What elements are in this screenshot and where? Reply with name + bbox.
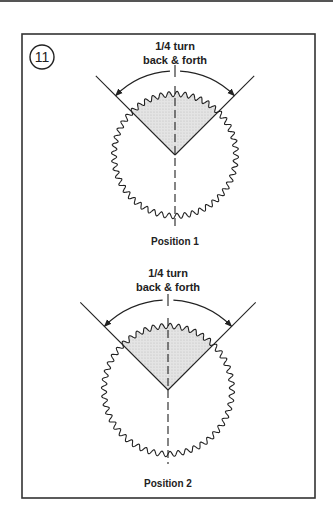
- annotation-line1-pos1: 1/4 turn: [155, 40, 195, 52]
- step-number: 11: [35, 49, 50, 65]
- arrow-left-icon: [104, 300, 162, 326]
- arrow-right-icon: [180, 71, 234, 95]
- diagram-position-1: [96, 65, 254, 226]
- annotation-line2-pos2: back & forth: [136, 281, 200, 293]
- caption-pos1: Position 1: [151, 236, 199, 247]
- arrow-right-icon: [173, 300, 231, 326]
- diagram-position-2: [80, 294, 255, 464]
- caption-pos2: Position 2: [144, 478, 192, 489]
- arrow-left-icon: [116, 71, 170, 95]
- step-badge: 11: [30, 45, 54, 69]
- annotation-line1-pos2: 1/4 turn: [148, 267, 188, 279]
- figure-canvas: 11 1/4 turn back & forth Position 1 1/4 …: [0, 0, 333, 518]
- annotation-line2-pos1: back & forth: [143, 54, 207, 66]
